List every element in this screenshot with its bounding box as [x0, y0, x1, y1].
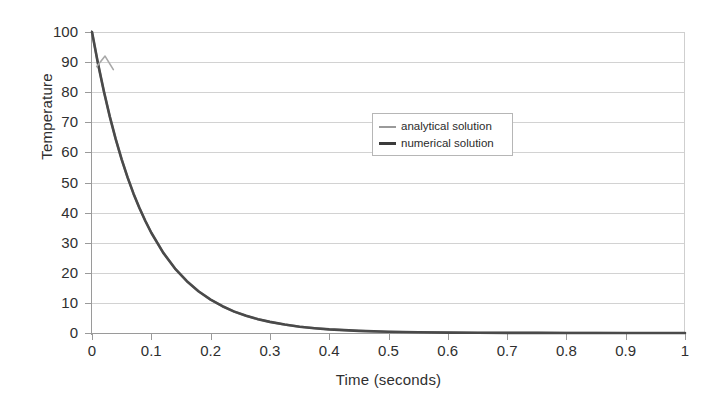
legend-entry: numerical solution	[379, 135, 506, 152]
legend-entry: analytical solution	[379, 118, 506, 135]
legend-line-swatch	[379, 142, 396, 145]
legend-label: analytical solution	[401, 121, 492, 133]
series-line	[92, 32, 685, 333]
legend-label: numerical solution	[401, 138, 494, 150]
chart-figure: Temperature Time (seconds) 0102030405060…	[0, 0, 709, 413]
chart-curves	[0, 0, 709, 413]
chart-legend: analytical solutionnumerical solution	[372, 113, 513, 156]
legend-line-swatch	[379, 126, 396, 128]
series-line	[92, 32, 685, 333]
